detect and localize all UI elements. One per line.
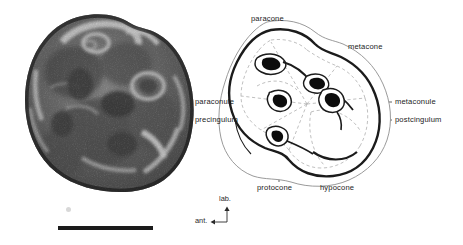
label-protocone: protocone bbox=[257, 183, 292, 192]
specimen-photo-panel bbox=[0, 0, 210, 245]
label-precingulum: precingulum bbox=[195, 115, 238, 124]
scale-bar bbox=[58, 226, 153, 230]
schematic-diagram-panel: paracone metacone paraconule metaconule … bbox=[195, 0, 463, 245]
label-metacone: metacone bbox=[348, 42, 383, 51]
label-postcingulum: postcingulum bbox=[395, 115, 442, 124]
cusp-paraconule bbox=[267, 90, 291, 111]
photo-artifact-speck bbox=[66, 207, 71, 212]
orientation-label-anterior: ant. bbox=[195, 216, 207, 225]
figure-root: paracone metacone paraconule metaconule … bbox=[0, 0, 463, 245]
orientation-label-labial: lab. bbox=[219, 194, 231, 203]
label-paraconule: paraconule bbox=[195, 97, 234, 106]
label-paracone: paracone bbox=[251, 14, 284, 23]
orientation-key-arrows bbox=[211, 207, 230, 225]
label-metaconule: metaconule bbox=[395, 97, 436, 106]
label-hypocone: hypocone bbox=[320, 183, 354, 192]
tooth-specimen-photograph bbox=[22, 12, 198, 194]
